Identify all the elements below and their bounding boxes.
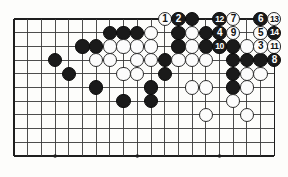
white-stone: [116, 67, 130, 81]
stone-number-label: 6: [258, 14, 263, 24]
numbered-stone-12: 12: [212, 12, 226, 26]
stone-number-label: 13: [270, 15, 279, 24]
white-stone: [144, 39, 158, 53]
stone-number-label: 14: [270, 28, 279, 37]
numbered-stone-6: 6: [253, 12, 267, 26]
white-stone: [103, 39, 117, 53]
black-stone: [171, 26, 185, 40]
white-stone: [171, 53, 185, 67]
go-board-diagram: 1212761349514103118: [0, 0, 288, 177]
white-stone: [130, 39, 144, 53]
white-stone: [199, 108, 213, 122]
stone-number-label: 12: [215, 15, 224, 24]
white-stone: [185, 80, 199, 94]
numbered-stone-10: 10: [212, 39, 226, 53]
white-stone: [199, 53, 213, 67]
black-stone: [171, 39, 185, 53]
stone-number-label: 1: [162, 14, 167, 24]
black-stone: [158, 67, 172, 81]
white-stone: [240, 39, 254, 53]
numbered-stone-4: 4: [212, 26, 226, 40]
stone-number-label: 8: [272, 55, 277, 65]
black-stone: [103, 26, 117, 40]
stone-number-label: 4: [217, 28, 222, 38]
white-stone: [240, 80, 254, 94]
numbered-stone-11: 11: [267, 39, 281, 53]
numbered-stone-2: 2: [171, 12, 185, 26]
black-stone: [62, 67, 76, 81]
black-stone: [158, 53, 172, 67]
stone-number-label: 11: [270, 42, 278, 51]
white-stone: [144, 26, 158, 40]
white-stone: [116, 39, 130, 53]
stone-number-label: 5: [258, 28, 263, 38]
numbered-stone-1: 1: [158, 12, 172, 26]
stone-number-label: 9: [231, 28, 236, 38]
black-stone: [89, 39, 103, 53]
numbered-stone-3: 3: [253, 39, 267, 53]
white-stone: [185, 39, 199, 53]
black-stone: [116, 94, 130, 108]
black-stone: [116, 26, 130, 40]
black-stone: [75, 39, 89, 53]
black-stone: [226, 39, 240, 53]
stone-number-label: 3: [258, 41, 263, 51]
black-stone: [144, 80, 158, 94]
black-stone: [199, 26, 213, 40]
white-stone: [199, 80, 213, 94]
black-stone: [226, 80, 240, 94]
stone-number-label: 2: [176, 14, 181, 24]
numbered-stone-5: 5: [253, 26, 267, 40]
white-stone: [240, 67, 254, 81]
stone-number-label: 10: [215, 42, 224, 51]
white-stone: [185, 26, 199, 40]
white-stone: [253, 67, 267, 81]
white-stone: [240, 108, 254, 122]
black-stone: [89, 80, 103, 94]
black-stone: [199, 39, 213, 53]
numbered-stone-9: 9: [226, 26, 240, 40]
black-stone: [253, 53, 267, 67]
stone-number-label: 7: [231, 14, 236, 24]
